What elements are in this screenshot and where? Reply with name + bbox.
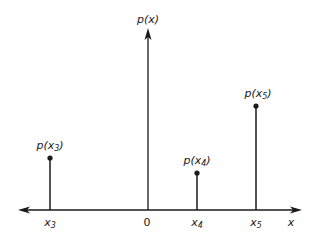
- origin-label: 0: [144, 216, 151, 229]
- stem-dot-icon: [253, 103, 258, 108]
- x3-label: x3: [43, 216, 56, 230]
- x-axis-label: x: [287, 216, 295, 229]
- stem-x4: p(x4) x4: [182, 154, 210, 230]
- stem-dot-icon: [47, 155, 52, 160]
- stem-x5: p(x5) x5: [243, 87, 271, 230]
- probability-diagram: p(x) 0 x p(x3) x3 p(x4) x4 p(x5) x5: [0, 0, 315, 236]
- p-x3-label: p(x3): [35, 139, 63, 153]
- x5-label: x5: [249, 216, 262, 230]
- x4-label: x4: [190, 216, 203, 230]
- p-x4-label: p(x4): [182, 154, 210, 168]
- y-axis-label: p(x): [136, 13, 159, 26]
- stem-dot-icon: [194, 170, 199, 175]
- p-x5-label: p(x5): [243, 87, 271, 101]
- stem-x3: p(x3) x3: [35, 139, 63, 230]
